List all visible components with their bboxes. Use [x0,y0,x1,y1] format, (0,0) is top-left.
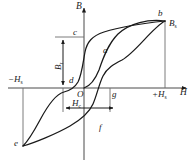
point-label-d: d [69,76,74,85]
point-label-g: g [112,90,117,99]
coercivity-label: Hc [72,99,81,108]
point-label-e: e [14,139,18,148]
x-axis-label-H: H [180,88,187,98]
axis-lines [8,8,186,160]
hysteresis-loop-figure: B H O Bs Br Hc +Hs −Hs a b c d e f g [0,0,194,167]
remanence-symbol: B [53,65,63,71]
neg-field-symbol: −H [8,74,21,84]
point-label-c: c [73,28,77,37]
neg-saturation-field-label: −Hs [8,75,23,84]
hysteresis-loop-svg [0,0,194,167]
coercivity-symbol: H [72,98,79,108]
pos-saturation-field-label: +Hs [152,90,167,99]
point-label-a: a [103,46,108,55]
neg-field-subscript: s [21,79,23,85]
saturation-flux-symbol: B [169,18,175,28]
saturation-flux-label: Bs [169,19,177,28]
coercivity-subscript: c [79,103,81,109]
remanence-label: Br [54,63,63,70]
ascending-branch [23,21,165,146]
saturation-flux-subscript: s [175,23,177,29]
pos-field-symbol: +H [152,89,165,99]
hysteresis-curves [23,21,165,146]
pos-field-subscript: s [165,94,167,100]
y-axis-label-B: B [76,2,82,12]
point-label-b: b [158,9,163,18]
point-label-f: f [99,123,102,132]
